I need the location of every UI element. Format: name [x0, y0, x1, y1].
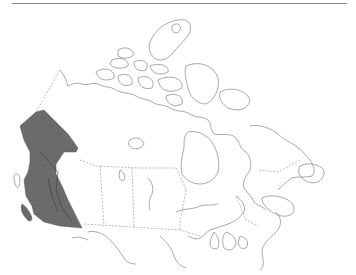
- canada-map: [0, 0, 356, 275]
- provincial-borders: [36, 70, 300, 236]
- arctic-islands: [96, 20, 250, 110]
- species-range: [20, 110, 82, 228]
- mainland-coast: [60, 70, 324, 270]
